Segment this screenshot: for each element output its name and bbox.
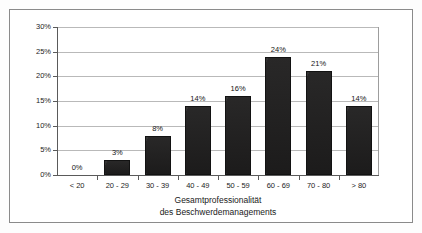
bar-value-label: 14% [178,94,218,103]
y-tick-label: 25% [11,48,51,56]
x-tick-mark [218,176,219,180]
bar-value-label: 8% [138,124,178,133]
y-tick-label: 30% [11,23,51,31]
bar-value-label: 3% [97,148,137,157]
x-tick-mark [138,176,139,180]
y-tick-label: 5% [11,146,51,154]
x-tick-mark [178,176,179,180]
bar [145,136,171,175]
x-axis-title: Gesamtprofessionalität des Beschwerdeman… [57,195,379,218]
x-tick-mark [97,176,98,180]
x-tick-label: > 80 [334,181,384,190]
x-axis-title-line-2: des Beschwerdemanagements [57,207,379,219]
bar [104,160,130,175]
y-tick-label: 0% [11,171,51,179]
bar-value-label: 16% [218,84,258,93]
y-tick-label: 15% [11,97,51,105]
chart-figure: 0%5%10%15%20%25%30% < 2020 - 2930 - 3940… [0,0,422,233]
y-tick-label: 20% [11,72,51,80]
plot-area: 0%3%8%14%16%24%21%14% [57,27,379,176]
bar [225,96,251,175]
gridline [58,27,378,28]
bar-value-label: 0% [57,163,97,172]
bar [346,106,372,175]
bar-value-label: 14% [339,94,379,103]
bar [265,57,291,175]
x-tick-mark [258,176,259,180]
x-axis-title-line-1: Gesamtprofessionalität [57,195,379,207]
bar-value-label: 24% [258,45,298,54]
x-tick-mark [299,176,300,180]
y-tick-label: 10% [11,122,51,130]
gridline [58,52,378,53]
x-tick-mark [339,176,340,180]
bar [185,106,211,175]
bar [306,71,332,175]
bar-value-label: 21% [299,59,339,68]
